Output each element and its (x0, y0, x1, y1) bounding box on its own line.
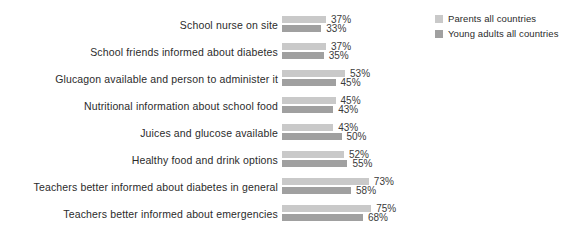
chart-row: School nurse on site37%33% (0, 11, 420, 38)
chart-row: School friends informed about diabetes37… (0, 38, 420, 65)
category-label: Nutritional information about school foo… (0, 100, 282, 112)
chart-row: Teachers better informed about diabetes … (0, 173, 420, 200)
bar-parents (282, 151, 344, 158)
bar-value-label: 68% (368, 213, 388, 223)
category-label: Healthy food and drink options (0, 154, 282, 166)
bar-young (282, 25, 321, 32)
chart-rows: School nurse on site37%33%School friends… (0, 11, 420, 227)
category-label: School friends informed about diabetes (0, 46, 282, 58)
legend-item[interactable]: Young adults all countries (435, 27, 570, 40)
bar-young (282, 187, 351, 194)
bar-group: 37%35% (282, 38, 420, 65)
bar-chart: School nurse on site37%33%School friends… (0, 0, 572, 232)
chart-legend: Parents all countriesYoung adults all co… (435, 12, 570, 42)
bar-young (282, 106, 333, 113)
bar-parents (282, 97, 336, 104)
bar-group: 53%45% (282, 65, 420, 92)
category-label: Teachers better informed about emergenci… (0, 208, 282, 220)
bar-group: 52%55% (282, 146, 420, 173)
bar-parents (282, 43, 326, 50)
category-label: Glucagon available and person to adminis… (0, 73, 282, 85)
bar-parents (282, 124, 333, 131)
bar-parents (282, 16, 326, 23)
bar-value-label: 45% (341, 78, 361, 88)
bar-value-label: 35% (329, 51, 349, 61)
category-label: Juices and glucose available (0, 127, 282, 139)
legend-swatch-parents-icon (435, 15, 443, 23)
bar-value-label: 73% (374, 177, 394, 187)
category-label: School nurse on site (0, 19, 282, 31)
chart-row: Glucagon available and person to adminis… (0, 65, 420, 92)
legend-swatch-young-adults-icon (435, 30, 443, 38)
chart-row: Teachers better informed about emergenci… (0, 200, 420, 227)
bar-young (282, 160, 347, 167)
chart-row: Juices and glucose available43%50% (0, 119, 420, 146)
chart-row: Nutritional information about school foo… (0, 92, 420, 119)
legend-label: Parents all countries (448, 13, 536, 24)
bar-group: 73%58% (282, 173, 420, 200)
bar-young (282, 79, 336, 86)
bar-value-label: 50% (347, 132, 367, 142)
bar-parents (282, 205, 371, 212)
bar-group: 75%68% (282, 200, 420, 227)
bar-group: 37%33% (282, 11, 420, 38)
category-label: Teachers better informed about diabetes … (0, 181, 282, 193)
bar-value-label: 58% (356, 186, 376, 196)
bar-parents (282, 178, 369, 185)
legend-label: Young adults all countries (448, 28, 559, 39)
bar-parents (282, 70, 345, 77)
bar-value-label: 55% (352, 159, 372, 169)
chart-row: Healthy food and drink options52%55% (0, 146, 420, 173)
bar-value-label: 33% (326, 24, 346, 34)
bar-young (282, 52, 324, 59)
bar-young (282, 214, 363, 221)
bar-group: 45%43% (282, 92, 420, 119)
bar-group: 43%50% (282, 119, 420, 146)
bar-young (282, 133, 342, 140)
legend-item[interactable]: Parents all countries (435, 12, 570, 25)
bar-value-label: 43% (338, 105, 358, 115)
